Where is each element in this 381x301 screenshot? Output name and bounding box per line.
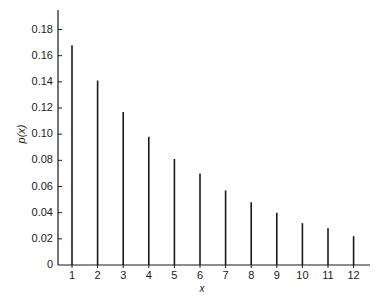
x-tick-label: 2: [88, 270, 108, 281]
x-tick-label: 11: [318, 270, 338, 281]
chart-area: 00.020.040.060.080.100.120.140.160.18 12…: [0, 0, 381, 301]
y-tick-label: 0.02: [9, 233, 53, 244]
x-tick-label: 4: [139, 270, 159, 281]
x-tick-label: 6: [190, 270, 210, 281]
x-tick-label: 7: [216, 270, 236, 281]
x-tick-label: 10: [292, 270, 312, 281]
y-tick-label: 0.12: [9, 102, 53, 113]
y-axis-label: p(x): [15, 119, 27, 149]
x-tick-label: 1: [62, 270, 82, 281]
x-tick-label: 5: [164, 270, 184, 281]
x-tick-label: 3: [113, 270, 133, 281]
y-tick-label: 0.08: [9, 154, 53, 165]
x-axis-label: x: [196, 283, 208, 294]
y-tick-label: 0.04: [9, 207, 53, 218]
x-tick-label: 12: [344, 270, 364, 281]
y-tick-label: 0.16: [9, 50, 53, 61]
plot-svg: [0, 0, 381, 301]
y-tick-label: 0.14: [9, 76, 53, 87]
y-tick-label: 0.18: [9, 24, 53, 35]
y-tick-label: 0.06: [9, 181, 53, 192]
x-tick-label: 9: [267, 270, 287, 281]
y-tick-label: 0: [9, 259, 53, 270]
x-tick-label: 8: [241, 270, 261, 281]
